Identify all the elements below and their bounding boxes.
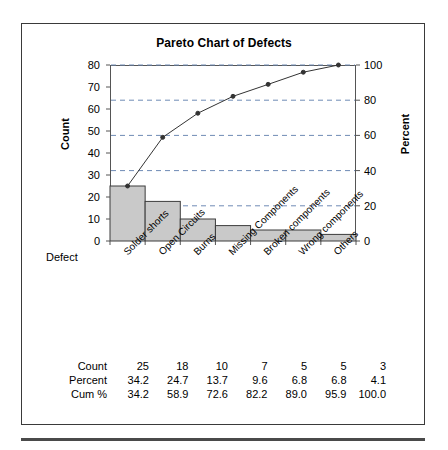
table-cell-r0-c4: 5 xyxy=(273,360,307,372)
table-cell-r2-c2: 72.6 xyxy=(194,388,228,400)
table-cell-r1-c1: 24.7 xyxy=(155,374,189,386)
y2-tick-label-4: 80 xyxy=(364,95,394,106)
y2-tick-label-0: 0 xyxy=(364,236,394,247)
cumulative-marker-3 xyxy=(231,94,235,98)
table-cell-r1-c5: 6.8 xyxy=(313,374,347,386)
y-tick-label-5: 50 xyxy=(72,126,100,137)
table-row-label-1: Percent xyxy=(21,374,107,386)
table-cell-r1-c6: 4.1 xyxy=(352,374,386,386)
y2-tick-label-1: 20 xyxy=(364,201,394,212)
table-cell-r2-c4: 89.0 xyxy=(273,388,307,400)
table-cell-r2-c6: 100.0 xyxy=(352,388,386,400)
table-row: Percent34.224.713.79.66.86.84.1 xyxy=(21,374,425,388)
y-tick-label-2: 20 xyxy=(72,192,100,203)
table-row-label-2: Cum % xyxy=(21,388,107,400)
y2-tick-label-2: 40 xyxy=(364,166,394,177)
cumulative-line xyxy=(128,65,339,186)
y-tick-label-7: 70 xyxy=(72,82,100,93)
table-cell-r2-c3: 82.2 xyxy=(234,388,268,400)
cumulative-marker-2 xyxy=(196,111,200,115)
y-tick-label-0: 0 xyxy=(72,236,100,247)
y2-tick-label-5: 100 xyxy=(364,60,394,71)
table-cell-r1-c3: 9.6 xyxy=(234,374,268,386)
table-cell-r0-c6: 3 xyxy=(352,360,386,372)
table-cell-r0-c2: 10 xyxy=(194,360,228,372)
summary-table: Count2518107553Percent34.224.713.79.66.8… xyxy=(21,360,425,402)
y-tick-label-4: 40 xyxy=(72,148,100,159)
table-row: Cum %34.258.972.682.289.095.9100.0 xyxy=(21,388,425,402)
table-cell-r0-c5: 5 xyxy=(313,360,347,372)
y-tick-label-6: 60 xyxy=(72,104,100,115)
y-tick-label-8: 80 xyxy=(72,60,100,71)
table-cell-r0-c0: 25 xyxy=(115,360,149,372)
cumulative-marker-5 xyxy=(301,70,305,74)
table-cell-r2-c1: 58.9 xyxy=(155,388,189,400)
table-row: Count2518107553 xyxy=(21,360,425,374)
table-cell-r2-c0: 34.2 xyxy=(115,388,149,400)
table-cell-r0-c3: 7 xyxy=(234,360,268,372)
y-tick-label-1: 10 xyxy=(72,214,100,225)
table-cell-r1-c4: 6.8 xyxy=(273,374,307,386)
y2-tick-label-3: 60 xyxy=(364,130,394,141)
table-cell-r1-c2: 13.7 xyxy=(194,374,228,386)
cumulative-marker-6 xyxy=(336,63,340,67)
y-tick-label-3: 30 xyxy=(72,170,100,181)
cumulative-marker-0 xyxy=(126,184,130,188)
table-cell-r2-c5: 95.9 xyxy=(313,388,347,400)
pareto-chart-figure: Pareto Chart of Defects Count Percent De… xyxy=(0,0,448,450)
cumulative-marker-4 xyxy=(266,82,270,86)
table-cell-r1-c0: 34.2 xyxy=(115,374,149,386)
cumulative-marker-1 xyxy=(161,135,165,139)
table-cell-r0-c1: 18 xyxy=(155,360,189,372)
table-row-label-0: Count xyxy=(21,360,107,372)
